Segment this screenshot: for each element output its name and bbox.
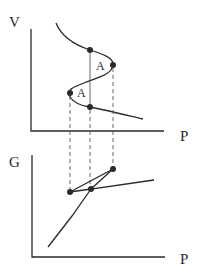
point-crossing (88, 186, 94, 192)
top-plot: V P A A (9, 14, 188, 144)
area-label-lower: A (77, 86, 86, 100)
point-max (110, 62, 116, 68)
top-y-axis-label: V (9, 14, 20, 30)
bottom-plot: G P (9, 154, 188, 267)
point-min (67, 90, 73, 96)
top-axes (31, 29, 164, 131)
diagram-canvas: V P A A G P (0, 0, 199, 276)
gibbs-stable-branch (48, 180, 154, 247)
area-label-upper: A (96, 59, 105, 73)
bottom-y-axis-label: G (9, 154, 20, 170)
point-lower (87, 104, 93, 110)
top-x-axis-label: P (180, 128, 188, 144)
bottom-x-axis-label: P (180, 251, 188, 267)
point-upper (87, 47, 93, 53)
point-cusp-left (67, 189, 73, 195)
point-cusp-right (110, 166, 116, 172)
